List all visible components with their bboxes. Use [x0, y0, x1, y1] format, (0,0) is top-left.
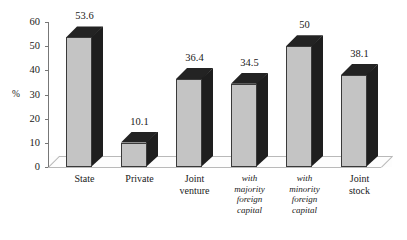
y-axis-tick-label: 40 — [18, 65, 40, 76]
bar-value-label: 50 — [278, 20, 331, 31]
bar-front-face — [286, 46, 312, 167]
bar-value-label: 53.6 — [58, 11, 111, 22]
bar-side-face — [256, 73, 268, 167]
y-axis — [48, 22, 49, 167]
y-axis-tick — [45, 22, 48, 23]
y-axis-label: % — [12, 90, 20, 100]
y-axis-tick-label: 0 — [18, 162, 40, 173]
y-axis-tick — [45, 46, 48, 47]
y-axis-tick-label: 20 — [18, 114, 40, 125]
y-axis-tick-label: 60 — [18, 17, 40, 28]
bar-side-face — [366, 64, 378, 167]
bar-value-label: 36.4 — [168, 53, 221, 64]
bar-side-face — [201, 68, 213, 167]
y-axis-tick-label: 50 — [18, 41, 40, 52]
y-axis-tick — [45, 70, 48, 71]
bar-front-face — [176, 79, 202, 167]
bar-front-face — [231, 84, 257, 167]
bar-value-label: 10.1 — [113, 117, 166, 128]
x-axis-category-label: Joint stock — [327, 173, 392, 196]
y-axis-tick-label: 30 — [18, 90, 40, 101]
bar-value-label: 34.5 — [223, 58, 276, 69]
bar-chart: 0102030405060%53.6State10.1Private36.4Jo… — [0, 0, 407, 240]
y-axis-tick — [45, 95, 48, 96]
y-axis-tick-label: 10 — [18, 138, 40, 149]
y-axis-tick — [45, 167, 48, 168]
y-axis-tick — [45, 119, 48, 120]
bar-front-face — [66, 37, 92, 167]
y-axis-tick — [45, 143, 48, 144]
bar-front-face — [341, 75, 367, 167]
bar-side-face — [91, 26, 103, 167]
bar-front-face — [121, 143, 147, 167]
bar-side-face — [311, 35, 323, 167]
bar-value-label: 38.1 — [333, 49, 386, 60]
floor-front-edge — [48, 167, 381, 168]
